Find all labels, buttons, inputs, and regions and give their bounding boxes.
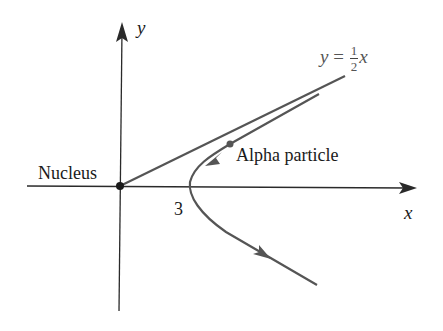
x-axis (27, 182, 417, 194)
particle-trajectory (190, 94, 319, 285)
alpha-particle-label: Alpha particle (236, 146, 338, 164)
alpha-particle-dot (227, 141, 234, 148)
y-axis-label: y (137, 18, 145, 37)
hyperbolic-trajectory-diagram: y x Nucleus 3 Alpha particle y = 1 2 x (0, 0, 443, 331)
asymptote-equals: = (333, 46, 344, 67)
asymptote-denominator: 2 (350, 59, 359, 73)
outgoing-direction-arrow-icon (253, 245, 271, 259)
vertex-value-label: 3 (174, 200, 183, 218)
asymptote-equation-label: y = 1 2 x (320, 44, 368, 73)
asymptote-numerator: 1 (350, 44, 359, 59)
nucleus-label: Nucleus (38, 164, 97, 182)
y-axis (116, 22, 128, 311)
nucleus-dot (116, 182, 124, 190)
asymptote-variable: x (359, 46, 367, 67)
asymptote-fraction: 1 2 (350, 44, 359, 73)
asymptote-line (120, 76, 345, 186)
x-axis-label: x (404, 203, 412, 222)
asymptote-lhs: y (320, 46, 328, 67)
